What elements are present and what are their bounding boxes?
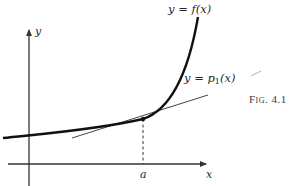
tangent-label-prefix: y = p <box>183 71 215 85</box>
stray-mark <box>251 71 261 76</box>
y-axis-label: y <box>34 25 42 38</box>
tangent-label-suffix: (x) <box>220 71 235 85</box>
tick-label-a: a <box>140 168 147 181</box>
tangent-label: y = p1(x) <box>183 71 235 86</box>
figure-caption: Fig. 4.1 <box>249 93 287 105</box>
x-axis-label: x <box>206 168 213 181</box>
tangency-point <box>141 117 145 121</box>
tangent-line-p1 <box>72 95 208 138</box>
curve-f <box>3 17 198 138</box>
curve-label: y = f(x) <box>167 2 211 16</box>
figure-canvas: y x a y = f(x) y = p1(x) Fig. 4.1 <box>0 0 289 186</box>
